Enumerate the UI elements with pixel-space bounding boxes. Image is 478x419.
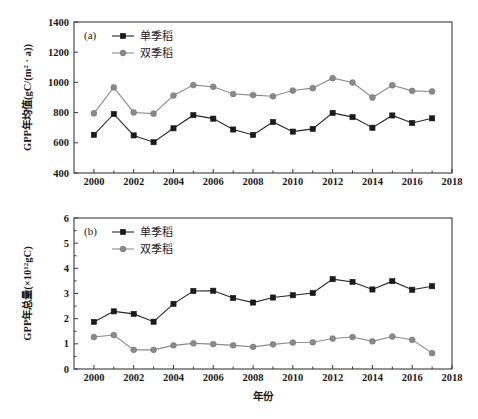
data-point-single-season[interactable] [131, 133, 136, 138]
data-point-double-season[interactable] [91, 110, 97, 116]
data-point-double-season[interactable] [230, 342, 236, 348]
x-tick-label: 2010 [282, 176, 303, 187]
data-point-single-season[interactable] [350, 115, 355, 120]
y-tick-label: 0 [64, 364, 69, 375]
data-point-double-season[interactable] [230, 91, 236, 97]
y-axis-title: GPP年总量(×1012gC) [21, 246, 34, 341]
data-point-double-season[interactable] [190, 340, 196, 346]
x-tick-label: 2002 [123, 176, 144, 187]
data-point-double-season[interactable] [111, 84, 117, 90]
data-point-double-season[interactable] [370, 95, 376, 101]
y-tick-label: 1 [64, 338, 69, 349]
data-point-double-season[interactable] [111, 332, 117, 338]
data-point-single-season[interactable] [191, 288, 196, 293]
data-point-double-season[interactable] [290, 340, 296, 346]
data-point-single-season[interactable] [231, 127, 236, 132]
x-tick-label: 2004 [163, 372, 185, 383]
data-point-double-season[interactable] [310, 85, 316, 91]
data-point-single-season[interactable] [151, 140, 156, 145]
data-point-single-season[interactable] [410, 287, 415, 292]
x-tick-label: 2002 [123, 372, 144, 383]
data-point-double-season[interactable] [270, 93, 276, 99]
data-point-double-season[interactable] [330, 75, 336, 81]
data-point-double-season[interactable] [131, 347, 137, 353]
x-tick-label: 2012 [322, 372, 343, 383]
data-point-single-season[interactable] [330, 277, 335, 282]
data-point-single-season[interactable] [171, 126, 176, 131]
data-point-double-season[interactable] [210, 341, 216, 347]
x-tick-label: 2016 [402, 372, 423, 383]
data-point-single-season[interactable] [211, 116, 216, 121]
data-point-double-season[interactable] [350, 334, 356, 340]
data-point-double-season[interactable] [250, 344, 256, 350]
data-point-single-season[interactable] [370, 125, 375, 130]
legend-label: 单季稻 [140, 30, 173, 42]
series-line-single-season [94, 279, 432, 322]
data-point-single-season[interactable] [111, 111, 116, 116]
data-point-double-season[interactable] [310, 339, 316, 345]
y-tick-label: 400 [53, 168, 69, 179]
y-tick-label: 1000 [48, 77, 69, 88]
data-point-single-season[interactable] [250, 132, 255, 137]
data-point-single-season[interactable] [270, 119, 275, 124]
plot-frame [74, 218, 452, 369]
data-point-double-season[interactable] [270, 341, 276, 347]
data-point-single-season[interactable] [171, 301, 176, 306]
data-point-double-season[interactable] [330, 336, 336, 342]
data-point-single-season[interactable] [370, 287, 375, 292]
data-point-double-season[interactable] [350, 80, 356, 86]
y-tick-label: 1200 [48, 47, 69, 58]
data-point-double-season[interactable] [290, 88, 296, 94]
data-point-double-season[interactable] [409, 88, 415, 94]
data-point-double-season[interactable] [409, 337, 415, 343]
data-point-single-season[interactable] [330, 110, 335, 115]
data-point-single-season[interactable] [250, 300, 255, 305]
data-point-single-season[interactable] [290, 129, 295, 134]
data-point-double-season[interactable] [171, 342, 177, 348]
data-point-single-season[interactable] [310, 290, 315, 295]
panel-a-plot: 4006008001000120014002000200220042006200… [0, 0, 478, 205]
x-tick-label: 2006 [203, 176, 224, 187]
data-point-double-season[interactable] [250, 92, 256, 98]
data-point-double-season[interactable] [429, 350, 435, 356]
data-point-single-season[interactable] [270, 295, 275, 300]
x-tick-label: 2014 [362, 372, 384, 383]
x-tick-label: 2008 [243, 372, 264, 383]
y-axis-title-main: GPP年总量(×10 [21, 270, 34, 341]
data-point-single-season[interactable] [350, 279, 355, 284]
x-tick-label: 2008 [243, 176, 264, 187]
data-point-single-season[interactable] [191, 113, 196, 118]
data-point-single-season[interactable] [111, 309, 116, 314]
legend-square-marker-icon [120, 229, 125, 234]
data-point-double-season[interactable] [91, 334, 97, 340]
data-point-double-season[interactable] [389, 334, 395, 340]
y-axis-title-tail: · a)) [22, 44, 34, 65]
data-point-single-season[interactable] [211, 288, 216, 293]
data-point-single-season[interactable] [151, 319, 156, 324]
data-point-single-season[interactable] [390, 279, 395, 284]
data-point-single-season[interactable] [231, 295, 236, 300]
data-point-single-season[interactable] [290, 293, 295, 298]
y-axis-title-main: GPP年均值(gC/(m [21, 68, 34, 151]
legend-label: 单季稻 [140, 226, 173, 238]
data-point-double-season[interactable] [389, 82, 395, 88]
data-point-single-season[interactable] [91, 132, 96, 137]
data-point-single-season[interactable] [430, 116, 435, 121]
data-point-single-season[interactable] [390, 113, 395, 118]
data-point-double-season[interactable] [370, 338, 376, 344]
data-point-double-season[interactable] [429, 89, 435, 95]
data-point-single-season[interactable] [91, 319, 96, 324]
data-point-single-season[interactable] [310, 126, 315, 131]
panel-a-annual-mean-gpp: 4006008001000120014002000200220042006200… [0, 0, 478, 205]
data-point-double-season[interactable] [131, 110, 137, 116]
data-point-double-season[interactable] [151, 111, 157, 117]
panel-label: (a) [84, 29, 97, 42]
data-point-single-season[interactable] [131, 311, 136, 316]
data-point-double-season[interactable] [210, 84, 216, 90]
data-point-single-season[interactable] [410, 120, 415, 125]
data-point-double-season[interactable] [151, 347, 157, 353]
data-point-single-season[interactable] [430, 284, 435, 289]
data-point-double-season[interactable] [190, 82, 196, 88]
x-tick-label: 2000 [83, 176, 104, 187]
data-point-double-season[interactable] [171, 93, 177, 99]
